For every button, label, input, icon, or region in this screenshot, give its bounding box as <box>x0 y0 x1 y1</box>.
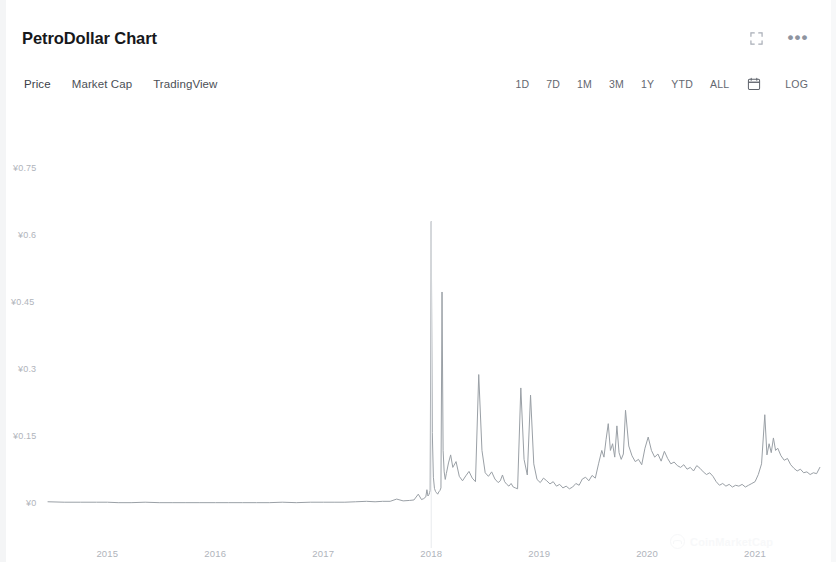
tab-market-cap[interactable]: Market Cap <box>72 78 132 90</box>
range-3m[interactable]: 3M <box>609 78 624 90</box>
range-7d[interactable]: 7D <box>546 78 560 90</box>
x-axis-tick: 2018 <box>420 548 442 559</box>
y-axis-tick: ¥0.75 <box>13 163 37 173</box>
range-1d[interactable]: 1D <box>515 78 529 90</box>
x-axis-tick: 2016 <box>204 548 226 559</box>
price-line <box>48 221 820 502</box>
chart-canvas <box>0 110 836 562</box>
chart-tabs: Price Market Cap TradingView <box>24 78 218 90</box>
page-title: PetroDollar Chart <box>22 29 157 48</box>
tab-price[interactable]: Price <box>24 78 51 90</box>
range-1m[interactable]: 1M <box>577 78 592 90</box>
chart-page: PetroDollar Chart ••• Price Market Cap T… <box>0 0 836 562</box>
x-axis-tick: 2015 <box>96 548 118 559</box>
x-axis-tick: 2017 <box>312 548 334 559</box>
x-axis-tick: 2021 <box>744 548 766 559</box>
range-ytd[interactable]: YTD <box>671 78 693 90</box>
range-1y[interactable]: 1Y <box>641 78 654 90</box>
y-axis-tick: ¥0.3 <box>18 364 36 374</box>
chart-header: PetroDollar Chart ••• <box>0 0 836 62</box>
range-all[interactable]: ALL <box>710 78 729 90</box>
y-axis-tick: ¥0.45 <box>11 297 35 307</box>
log-scale-toggle[interactable]: LOG <box>785 78 808 90</box>
fullscreen-icon[interactable] <box>746 28 766 48</box>
y-axis-tick: ¥0 <box>26 498 36 508</box>
time-range-selector: 1D 7D 1M 3M 1Y YTD ALL LOG <box>515 76 818 92</box>
more-options-dots: ••• <box>788 34 809 42</box>
x-axis-tick: 2019 <box>528 548 550 559</box>
price-chart[interactable]: ¥0.75¥0.6¥0.45¥0.3¥0.15¥0 20152016201720… <box>0 110 836 562</box>
x-axis-tick: 2020 <box>636 548 658 559</box>
tab-tradingview[interactable]: TradingView <box>153 78 217 90</box>
y-axis-tick: ¥0.15 <box>13 431 37 441</box>
chart-toolbar: Price Market Cap TradingView 1D 7D 1M 3M… <box>0 62 836 106</box>
y-axis-tick: ¥0.6 <box>18 230 36 240</box>
calendar-icon[interactable] <box>746 76 762 92</box>
more-options-icon[interactable]: ••• <box>788 28 808 48</box>
header-actions: ••• <box>746 28 814 48</box>
